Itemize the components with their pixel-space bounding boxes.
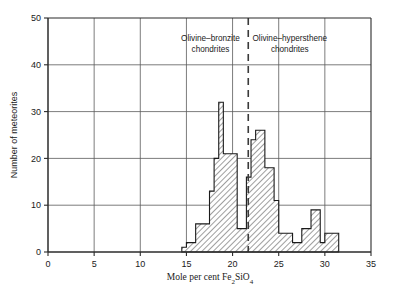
formula-subscript: 4: [250, 278, 254, 286]
histogram-chart: 05101520253035 01020304050 Olivine–bronz…: [0, 0, 399, 297]
x-tick-label: 5: [92, 259, 97, 269]
x-tick-label: 15: [181, 259, 191, 269]
annotation-label2-left-group: chondrites: [192, 45, 230, 54]
annotation-label-left-group: Olivine–bronzite: [181, 34, 240, 43]
x-tick-label: 0: [45, 259, 50, 269]
x-tick-label: 10: [135, 259, 145, 269]
x-tick-label: 25: [274, 259, 284, 269]
y-axis-title: Number of meteorites: [9, 91, 19, 178]
x-tick-label: 30: [320, 259, 330, 269]
y-tick-label: 10: [31, 200, 41, 210]
y-tick-label: 50: [31, 13, 41, 23]
y-tick-label: 30: [31, 107, 41, 117]
formula-text: Mole per cent Fe: [167, 272, 232, 282]
annotation-label2-right-group: chondrites: [271, 45, 309, 54]
y-tick-label: 40: [31, 60, 41, 70]
formula-text: SiO: [235, 272, 250, 282]
annotation-label-right-group: Olivine–hypersthene: [252, 34, 327, 43]
y-tick-label: 0: [36, 247, 41, 257]
x-tick-label: 35: [366, 259, 376, 269]
y-tick-label: 20: [31, 154, 41, 164]
x-tick-label: 20: [228, 259, 238, 269]
chart-canvas: 05101520253035 01020304050 Olivine–bronz…: [0, 0, 399, 297]
